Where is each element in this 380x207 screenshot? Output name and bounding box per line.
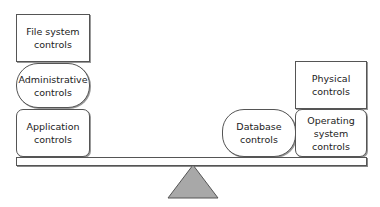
application-controls-label: Application controls xyxy=(23,120,83,146)
administrative-controls-box: Administrative controls xyxy=(16,63,90,108)
operating-system-controls-label: Operating system controls xyxy=(304,114,358,153)
physical-controls-box: Physical controls xyxy=(295,61,367,109)
operating-system-controls-box: Operating system controls xyxy=(295,109,367,157)
database-controls-box: Database controls xyxy=(222,109,296,157)
file-system-controls-label: File system controls xyxy=(25,25,81,51)
file-system-controls-box: File system controls xyxy=(16,14,90,62)
administrative-controls-label: Administrative controls xyxy=(18,73,88,99)
physical-controls-label: Physical controls xyxy=(306,72,356,98)
database-controls-label: Database controls xyxy=(233,120,285,146)
application-controls-box: Application controls xyxy=(16,109,90,157)
fulcrum-triangle-icon xyxy=(166,164,220,200)
